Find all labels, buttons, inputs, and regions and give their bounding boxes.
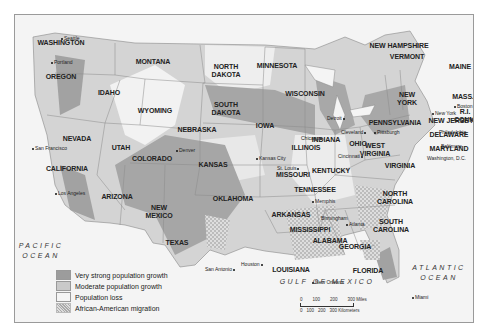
legend-swatch: [56, 292, 71, 302]
ocean-label-gulf: GULF OF MEXICO: [280, 277, 375, 287]
city-seattle: Seattle: [60, 35, 80, 41]
state-label-idaho: IDAHO: [98, 89, 120, 97]
state-label-nebraska: NEBRASKA: [178, 126, 217, 134]
state-label-conn: CONN.: [454, 116, 474, 124]
city-st-louis: St. Louis: [277, 165, 300, 171]
state-label-kentucky: KENTUCKY: [312, 167, 350, 175]
ocean-label-atlantic: ATLANTICOCEAN: [412, 263, 465, 283]
legend-item-migration: African-American migration: [56, 303, 168, 313]
state-label-ri: R.I.: [460, 108, 471, 116]
city-chicago: Chicago: [301, 135, 323, 141]
legend-swatch: [56, 270, 71, 280]
city-houston: Houston: [241, 261, 264, 267]
state-label-new-york: NEWYORK: [397, 91, 417, 107]
city-los-angeles: Los Angeles: [54, 190, 85, 196]
state-label-wyoming: WYOMING: [138, 107, 172, 115]
state-label-texas: TEXAS: [166, 239, 189, 247]
state-label-arkansas: ARKANSAS: [272, 211, 311, 219]
state-label-west-virginia: WESTVIRGINIA: [360, 142, 390, 158]
legend-item-very-strong: Very strong population growth: [56, 270, 168, 280]
state-label-south-dakota: SOUTHDAKOTA: [212, 101, 241, 117]
legend-item-loss: Population loss: [56, 292, 168, 302]
state-label-illinois: ILLINOIS: [292, 144, 321, 152]
city-san-antonio: San Antonio: [205, 266, 236, 272]
state-label-maine: MAINE: [449, 63, 471, 71]
city-san-francisco: San Francisco: [31, 145, 67, 151]
city-new-york: New York: [431, 110, 456, 116]
city-denver: Denver: [175, 147, 195, 153]
state-label-louisiana: LOUISIANA: [272, 266, 310, 274]
legend-swatch-hatch: [56, 303, 71, 313]
city-philadelphia: Philadelphia: [439, 129, 466, 135]
state-label-oregon: OREGON: [46, 73, 77, 81]
scale-bar: 0100200300 Miles 0100200300 Kilometers: [300, 297, 367, 313]
state-label-north-dakota: NORTHDAKOTA: [212, 63, 241, 79]
state-label-kansas: KANSAS: [199, 161, 228, 169]
state-label-minnesota: MINNESOTA: [257, 62, 298, 70]
state-label-arizona: ARIZONA: [101, 193, 132, 201]
state-label-utah: UTAH: [112, 144, 131, 152]
state-label-georgia: GEORGIA: [339, 243, 371, 251]
state-label-new-hampshire: NEW HAMPSHIRE: [370, 42, 429, 50]
state-label-mississippi: MISSISSIPPI: [290, 226, 331, 234]
city-atlanta: Atlanta: [345, 221, 365, 227]
scale-miles: 0100200300 Miles: [300, 297, 367, 302]
city-memphis: Memphis: [311, 198, 335, 204]
state-label-south-carolina: SOUTHCAROLINA: [373, 218, 409, 234]
city-detroit: Detroit: [327, 115, 346, 121]
city-portland: Portland: [50, 59, 73, 65]
map-legend: Very strong population growth Moderate p…: [56, 270, 168, 314]
state-label-oklahoma: OKLAHOMA: [213, 195, 253, 203]
state-label-california: CALIFORNIA: [46, 165, 88, 173]
city-washington-dc: Washington, D.C.: [427, 155, 466, 161]
legend-swatch: [56, 281, 71, 291]
state-label-colorado: COLORADO: [132, 155, 172, 163]
scale-line: [300, 303, 354, 307]
state-label-iowa: IOWA: [256, 122, 274, 130]
city-miami: Miami: [411, 294, 428, 300]
city-pittsburgh: Pittsburgh: [373, 129, 400, 135]
state-label-new-mexico: NEWMEXICO: [145, 204, 172, 220]
city-kansas-city: Kansas City: [255, 155, 286, 161]
state-label-pennsylvania: PENNSYLVANIA: [369, 119, 422, 127]
state-label-missouri: MISSOURI: [276, 171, 310, 179]
state-label-north-carolina: NORTHCAROLINA: [377, 190, 413, 206]
city-cincinnati: Cincinnati: [338, 153, 364, 159]
state-label-tennessee: TENNESSEE: [294, 186, 336, 194]
state-label-vermont: VERMONT: [390, 53, 424, 61]
legend-item-moderate: Moderate population growth: [56, 281, 168, 291]
state-label-mass: MASS.: [452, 93, 474, 101]
city-cleveland: Cleveland: [341, 129, 367, 135]
state-label-nevada: NEVADA: [63, 135, 91, 143]
state-label-virginia: VIRGINIA: [385, 162, 415, 170]
city-baltimore: Baltimore: [441, 143, 462, 149]
state-label-florida: FLORIDA: [353, 267, 383, 275]
state-label-montana: MONTANA: [136, 58, 171, 66]
scale-km: 0100200300 Kilometers: [300, 308, 367, 313]
city-boston: Boston: [453, 103, 473, 109]
state-label-wisconsin: WISCONSIN: [285, 90, 325, 98]
city-birmingham: Birmingham: [321, 215, 348, 221]
ocean-label-pacific: PACIFICOCEAN: [19, 241, 64, 261]
